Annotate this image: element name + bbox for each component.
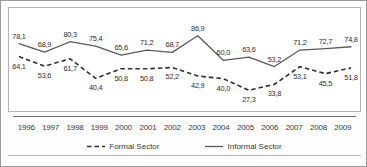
legend-divider (8, 155, 361, 156)
data-point-label: 68,9 (38, 40, 51, 49)
legend-label-formal: Formal Sector (109, 142, 159, 151)
x-axis-tick-label: 1996 (14, 123, 38, 132)
data-point-label: 53,2 (268, 54, 281, 63)
chart-legend: Formal Sector Informal Sector (8, 138, 361, 154)
data-point-label: 86,9 (191, 23, 204, 32)
data-point-label: 75,4 (89, 34, 102, 43)
x-axis-tick-label: 2001 (136, 123, 160, 132)
data-point-label: 40,0 (217, 83, 230, 92)
data-point-label: 68,7 (166, 40, 179, 49)
legend-item-informal: Informal Sector (205, 142, 281, 151)
data-point-label: 50,8 (114, 73, 127, 82)
x-axis-tick-label: 2002 (160, 123, 184, 132)
x-axis-tick-label: 1999 (87, 123, 111, 132)
x-axis-tick-label: 2005 (233, 123, 257, 132)
data-point-label: 51,8 (344, 72, 357, 81)
data-point-label: 61,7 (63, 63, 76, 72)
x-axis-tick-label: 2003 (185, 123, 209, 132)
x-axis-tick-label: 2000 (111, 123, 135, 132)
data-point-label: 74,8 (344, 34, 357, 43)
data-point-label: 78,1 (12, 31, 25, 40)
legend-label-informal: Informal Sector (227, 142, 281, 151)
data-point-label: 72,7 (319, 36, 332, 45)
data-point-label: 33,8 (268, 89, 281, 98)
x-axis-tick-label: 1997 (38, 123, 62, 132)
data-point-label: 52,2 (166, 72, 179, 81)
data-point-label: 63,6 (242, 45, 255, 54)
data-point-label: 45,5 (319, 78, 332, 87)
x-axis-line (13, 116, 356, 117)
legend-item-formal: Formal Sector (87, 142, 159, 151)
data-point-label: 65,6 (114, 43, 127, 52)
x-axis-tick-labels: 1996199719981999200020012002200320042005… (8, 119, 361, 135)
data-point-label: 71,2 (293, 38, 306, 47)
x-axis-tick-label: 2007 (282, 123, 306, 132)
data-point-label: 71,2 (140, 38, 153, 47)
x-axis-tick-label: 2006 (258, 123, 282, 132)
solid-line-icon (205, 143, 223, 150)
x-axis-tick-label: 2008 (306, 123, 330, 132)
data-point-label: 42,9 (191, 81, 204, 90)
data-point-label: 60,0 (217, 48, 230, 57)
data-point-label: 27,3 (242, 95, 255, 104)
chart-frame: 78,168,980,375,465,671,268,786,960,063,6… (0, 0, 367, 167)
data-point-label: 64,1 (12, 61, 25, 70)
x-axis-tick-label: 2009 (331, 123, 355, 132)
data-point-label: 50,8 (140, 73, 153, 82)
data-point-label: 80,3 (63, 29, 76, 38)
data-point-label: 53,6 (38, 71, 51, 80)
data-point-label: 40,4 (89, 83, 102, 92)
x-axis-tick-label: 2004 (209, 123, 233, 132)
x-axis-tick-label: 1998 (63, 123, 87, 132)
dashed-line-icon (87, 143, 105, 150)
data-point-label: 53,1 (293, 71, 306, 80)
